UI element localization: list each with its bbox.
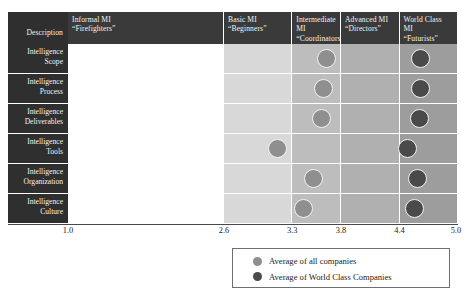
row-label-intelligence-tools: IntelligenceTools <box>8 134 68 163</box>
axis-tick-4-4: 4.4 <box>394 226 404 235</box>
maturity-band-1 <box>68 194 223 223</box>
legend-item-all-companies: Average of all companies <box>239 254 443 269</box>
column-header-row: Description Informal MI “Firefighters” B… <box>8 12 458 44</box>
data-dot-world-class <box>398 139 417 158</box>
maturity-band-1 <box>68 134 223 163</box>
header-world-class-mi: World Class MI “Futurists” <box>400 12 458 44</box>
axis-line <box>8 224 458 225</box>
row-label-line2: Scope <box>11 57 63 67</box>
row-label-line2: Process <box>11 87 63 97</box>
legend-label-all-companies: Average of all companies <box>269 256 356 266</box>
market-intelligence-maturity-matrix: Description Informal MI “Firefighters” B… <box>0 0 466 294</box>
axis-tick-1-0: 1.0 <box>63 226 73 235</box>
data-dot-all-companies <box>314 79 333 98</box>
maturity-band-1 <box>68 104 223 133</box>
row-label-line2: Tools <box>11 147 63 157</box>
axis-tick-3-3: 3.3 <box>287 226 297 235</box>
header-world-class-mi-line1: World Class MI <box>404 15 454 34</box>
header-basic-mi-line2: “Beginners” <box>228 24 287 33</box>
table-row: IntelligenceScope <box>8 44 458 73</box>
header-intermediate-mi-line1: Intermediate MI <box>296 15 336 34</box>
row-label-line2: Culture <box>11 207 63 217</box>
table-row: IntelligenceDeliverables <box>8 104 458 133</box>
header-informal-mi: Informal MI “Firefighters” <box>68 12 223 44</box>
row-label-intelligence-process: IntelligenceProcess <box>8 74 68 103</box>
legend-label-world-class: Average of World Class Companies <box>269 272 392 282</box>
header-advanced-mi-line2: “Directors” <box>345 24 395 33</box>
maturity-axis: 1.02.63.33.84.45.0 <box>8 224 458 240</box>
maturity-band-2 <box>224 74 291 103</box>
row-track <box>68 74 458 103</box>
row-label-line1: Intelligence <box>11 77 63 87</box>
maturity-band-1 <box>68 44 223 73</box>
row-label-line1: Intelligence <box>11 167 63 177</box>
maturity-band-2 <box>224 194 291 223</box>
maturity-band-4 <box>341 194 399 223</box>
header-advanced-mi: Advanced MI “Directors” <box>341 12 399 44</box>
row-track <box>68 44 458 73</box>
row-label-line1: Intelligence <box>11 197 63 207</box>
header-world-class-mi-line2: “Futurists” <box>404 34 454 43</box>
data-dot-all-companies <box>268 139 287 158</box>
header-description-label: Description <box>12 28 63 37</box>
table-row: IntelligenceProcess <box>8 74 458 103</box>
matrix-grid: Description Informal MI “Firefighters” B… <box>8 12 458 224</box>
axis-tick-2-6: 2.6 <box>219 226 229 235</box>
header-basic-mi-line1: Basic MI <box>228 15 287 24</box>
row-label-line2: Deliverables <box>11 117 63 127</box>
row-label-line2: Organization <box>11 177 63 187</box>
axis-tick-5-0: 5.0 <box>451 226 461 235</box>
header-informal-mi-line1: Informal MI <box>72 15 219 24</box>
maturity-band-4 <box>341 44 399 73</box>
header-intermediate-mi-line2: “Coordinators” <box>296 34 336 43</box>
header-description: Description <box>8 12 68 44</box>
row-track <box>68 134 458 163</box>
maturity-band-4 <box>341 164 399 193</box>
row-label-intelligence-deliverables: IntelligenceDeliverables <box>8 104 68 133</box>
legend-light-dot-icon <box>253 257 262 266</box>
data-dot-all-companies <box>317 49 336 68</box>
row-label-intelligence-organization: IntelligenceOrganization <box>8 164 68 193</box>
header-basic-mi: Basic MI “Beginners” <box>224 12 291 44</box>
legend-dark-dot-icon <box>253 272 262 281</box>
row-track <box>68 164 458 193</box>
data-dot-world-class <box>410 109 429 128</box>
axis-tick-3-8: 3.8 <box>336 226 346 235</box>
row-label-line1: Intelligence <box>11 107 63 117</box>
data-dot-world-class <box>408 169 427 188</box>
maturity-band-2 <box>224 164 291 193</box>
maturity-band-1 <box>68 74 223 103</box>
header-intermediate-mi: Intermediate MI “Coordinators” <box>292 12 340 44</box>
row-label-intelligence-culture: IntelligenceCulture <box>8 194 68 223</box>
row-track <box>68 104 458 133</box>
maturity-band-1 <box>68 164 223 193</box>
chart-legend: Average of all companies Average of Worl… <box>232 248 450 288</box>
header-advanced-mi-line1: Advanced MI <box>345 15 395 24</box>
row-label-intelligence-scope: IntelligenceScope <box>8 44 68 73</box>
maturity-band-4 <box>341 134 399 163</box>
maturity-band-3 <box>292 134 340 163</box>
table-row: IntelligenceTools <box>8 134 458 163</box>
header-informal-mi-line2: “Firefighters” <box>72 24 219 33</box>
table-row: IntelligenceCulture <box>8 194 458 223</box>
data-dot-world-class <box>405 199 424 218</box>
maturity-band-2 <box>224 104 291 133</box>
row-label-line1: Intelligence <box>11 137 63 147</box>
row-track <box>68 194 458 223</box>
maturity-band-4 <box>341 104 399 133</box>
legend-item-world-class: Average of World Class Companies <box>239 269 443 284</box>
row-label-line1: Intelligence <box>11 47 63 57</box>
table-row: IntelligenceOrganization <box>8 164 458 193</box>
matrix-body: IntelligenceScopeIntelligenceProcessInte… <box>8 44 458 224</box>
maturity-band-4 <box>341 74 399 103</box>
data-dot-all-companies <box>312 109 331 128</box>
maturity-band-2 <box>224 44 291 73</box>
